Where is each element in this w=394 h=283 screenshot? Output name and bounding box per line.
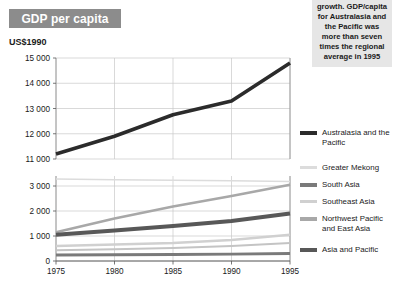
legend-swatch-icon bbox=[300, 166, 317, 169]
legend-swatch-icon bbox=[300, 183, 317, 187]
legend-item-label: Northwest Pacific and East Asia bbox=[322, 214, 394, 233]
y-tick-label: 14 000 bbox=[25, 79, 50, 88]
y-tick-label: 15 000 bbox=[25, 54, 50, 63]
y-tick-label: 11 000 bbox=[26, 155, 51, 164]
x-tick-label: 1975 bbox=[47, 267, 66, 276]
legend-item[interactable]: Greater Mekong bbox=[300, 163, 394, 173]
x-tick-label: 1985 bbox=[164, 267, 183, 276]
legend-item-label: Southeast Asia bbox=[322, 197, 375, 207]
y-tick-label: 1 000 bbox=[30, 232, 51, 241]
x-tick-label: 1980 bbox=[105, 267, 124, 276]
y-tick-label: 0 bbox=[45, 257, 50, 266]
y-tick-label: 12 000 bbox=[25, 130, 50, 139]
y-tick-label: 13 000 bbox=[25, 105, 50, 114]
legend-item[interactable]: Asia and Pacific bbox=[300, 245, 394, 255]
legend-item-label: Asia and Pacific bbox=[322, 245, 378, 255]
legend-item-label: Greater Mekong bbox=[322, 163, 379, 173]
y-tick-label: 3 000 bbox=[30, 182, 51, 191]
legend-item[interactable]: Southeast Asia bbox=[300, 197, 394, 207]
x-tick-label: 1995 bbox=[281, 267, 300, 276]
legend-item-label: South Asia bbox=[322, 180, 360, 190]
legend-swatch-icon bbox=[300, 217, 317, 221]
legend-item[interactable]: Northwest Pacific and East Asia bbox=[300, 214, 394, 233]
x-tick-label: 1990 bbox=[222, 267, 241, 276]
legend-swatch-icon bbox=[300, 131, 317, 135]
series-line bbox=[56, 254, 290, 256]
legend-item[interactable]: South Asia bbox=[300, 180, 394, 190]
legend-swatch-icon bbox=[300, 248, 317, 252]
y-tick-label: 2 000 bbox=[30, 207, 51, 216]
legend-item-label: Australasia and the Pacific bbox=[322, 128, 394, 147]
legend-item[interactable]: Australasia and the Pacific bbox=[300, 128, 394, 147]
legend-swatch-icon bbox=[300, 200, 317, 203]
